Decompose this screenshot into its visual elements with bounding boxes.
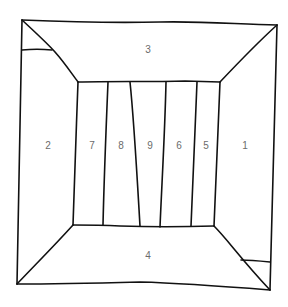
inner-frame-bottom: [73, 225, 214, 227]
perspective-box-diagram: 3 2 7 8 9 6 5 1 4: [0, 0, 288, 307]
region-label-back-panel-3: 9: [147, 140, 153, 151]
diagonal-bottom-left: [17, 225, 73, 284]
region-label-back-panel-2: 8: [118, 140, 124, 151]
diagonal-top-right: [220, 25, 277, 82]
inner-frame-right: [214, 82, 220, 226]
region-label-back-panel-1: 7: [89, 140, 95, 151]
outer-frame-bottom: [17, 282, 270, 290]
region-label-back-panel-5: 5: [203, 140, 209, 151]
divider-7-8: [103, 82, 108, 225]
region-label-back-panel-4: 6: [176, 140, 182, 151]
region-label-right-wall: 1: [242, 140, 248, 151]
region-label-floor: 4: [145, 250, 151, 261]
diagram-canvas: 3 2 7 8 9 6 5 1 4: [0, 0, 288, 307]
diagonal-bottom-right: [214, 226, 270, 290]
inner-frame-top: [78, 81, 220, 82]
divider-9-6: [160, 82, 166, 227]
region-label-left-wall: 2: [45, 140, 51, 151]
inner-frame-left: [73, 82, 78, 225]
divider-8-9: [130, 82, 140, 226]
outer-frame-left: [17, 20, 22, 284]
region-label-ceiling: 3: [145, 44, 151, 55]
diagonal-top-left: [22, 20, 78, 82]
outer-frame-right: [270, 25, 277, 290]
divider-6-5: [191, 82, 197, 226]
outer-frame-top: [22, 20, 277, 25]
corner-line-top-left: [22, 49, 52, 50]
